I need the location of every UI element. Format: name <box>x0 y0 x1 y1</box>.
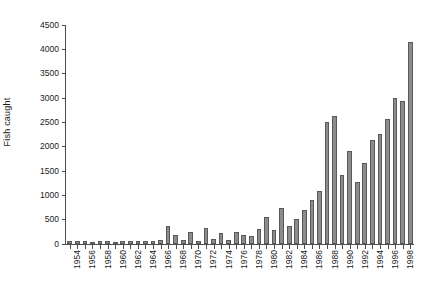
x-axis-tick-label: 1996 <box>391 250 400 269</box>
x-axis-tick-mark <box>115 245 116 249</box>
bar <box>67 241 72 244</box>
x-axis-tick-label: 1972 <box>209 250 218 269</box>
bar <box>211 239 216 244</box>
bar <box>378 134 383 244</box>
bar <box>257 229 262 244</box>
bar <box>90 242 95 244</box>
x-axis-tick-label: 1980 <box>270 250 279 269</box>
y-axis: 050010001500200025003000350040004500 <box>0 0 66 286</box>
x-axis-tick-mark <box>236 245 237 249</box>
x-axis-tick-mark <box>372 245 373 249</box>
x-axis-tick-mark <box>138 245 139 249</box>
x-axis-tick-mark <box>161 245 162 249</box>
bar <box>151 241 156 244</box>
bar <box>158 240 163 244</box>
y-axis-tick-label: 1000 <box>40 191 62 200</box>
bar <box>408 42 413 244</box>
y-axis-tick-label: 2000 <box>40 142 62 151</box>
x-axis-tick-mark <box>70 245 71 249</box>
bar <box>355 182 360 244</box>
bar <box>279 208 284 244</box>
x-axis-tick-mark <box>123 245 124 249</box>
x-axis-tick-label: 1960 <box>119 250 128 269</box>
x-axis-tick-mark <box>335 245 336 249</box>
bar <box>128 241 133 244</box>
x-axis-tick-label: 1966 <box>164 250 173 269</box>
x-axis-tick-mark <box>198 245 199 249</box>
bar <box>294 219 299 244</box>
bar <box>173 235 178 244</box>
bar <box>332 116 337 244</box>
x-axis-tick-label: 1986 <box>315 250 324 269</box>
bar <box>204 228 209 244</box>
y-axis-tick-label: 4000 <box>40 45 62 54</box>
x-axis-tick-label: 1990 <box>346 250 355 269</box>
x-axis-tick-mark <box>229 245 230 249</box>
x-axis-tick-mark <box>297 245 298 249</box>
x-axis-tick-mark <box>259 245 260 249</box>
x-axis-tick-mark <box>108 245 109 249</box>
x-axis-tick-label: 1994 <box>376 250 385 269</box>
bar <box>196 241 201 244</box>
x-axis-tick-mark <box>191 245 192 249</box>
x-axis-tick-mark <box>327 245 328 249</box>
x-axis-tick-mark <box>100 245 101 249</box>
x-axis-tick-mark <box>312 245 313 249</box>
x-axis-tick-label: 1958 <box>104 250 113 269</box>
x-axis-tick-mark <box>410 245 411 249</box>
bar <box>105 241 110 244</box>
y-axis-tick-label: 4500 <box>40 21 62 30</box>
x-axis-tick-mark <box>130 245 131 249</box>
x-axis-tick-mark <box>274 245 275 249</box>
x-axis-tick-label: 1988 <box>331 250 340 269</box>
x-axis-tick-mark <box>403 245 404 249</box>
x-axis-tick-mark <box>342 245 343 249</box>
x-axis-tick-mark <box>77 245 78 249</box>
x-axis-tick-label: 1974 <box>225 250 234 269</box>
x-axis-tick-mark <box>168 245 169 249</box>
bar <box>325 122 330 244</box>
bar <box>166 226 171 244</box>
x-axis-tick-mark <box>85 245 86 249</box>
x-axis-tick-label: 1964 <box>149 250 158 269</box>
y-axis-tick-label: 2500 <box>40 118 62 127</box>
bar <box>385 119 390 244</box>
bar <box>75 241 80 244</box>
bar <box>241 235 246 244</box>
x-axis-tick-label: 1970 <box>194 250 203 269</box>
x-axis-tick-mark <box>266 245 267 249</box>
x-axis-tick-mark <box>304 245 305 249</box>
bar <box>362 163 367 244</box>
x-axis-tick-mark <box>214 245 215 249</box>
y-axis-tick-label: 1500 <box>40 167 62 176</box>
bar <box>264 217 269 244</box>
y-axis-tick-label: 500 <box>45 215 62 224</box>
x-axis-tick-label: 1962 <box>134 250 143 269</box>
x-axis-tick-mark <box>206 245 207 249</box>
x-axis-tick-mark <box>251 245 252 249</box>
bar <box>113 242 118 244</box>
x-axis-tick-label: 1954 <box>73 250 82 269</box>
y-axis-tick-label: 3500 <box>40 69 62 78</box>
bar <box>393 98 398 244</box>
x-axis-tick-label: 1956 <box>88 250 97 269</box>
x-axis: 1954195619581960196219641966196819701972… <box>66 245 414 286</box>
x-axis-tick-label: 1976 <box>240 250 249 269</box>
bar <box>400 101 405 244</box>
bar <box>249 236 254 244</box>
x-axis-tick-mark <box>183 245 184 249</box>
x-axis-tick-mark <box>153 245 154 249</box>
bar <box>83 241 88 244</box>
x-axis-tick-mark <box>282 245 283 249</box>
bar <box>302 210 307 244</box>
x-axis-tick-label: 1984 <box>300 250 309 269</box>
bar <box>370 140 375 244</box>
x-axis-tick-mark <box>357 245 358 249</box>
x-axis-tick-mark <box>92 245 93 249</box>
plot-area <box>66 25 414 244</box>
x-axis-tick-mark <box>395 245 396 249</box>
x-axis-tick-mark <box>145 245 146 249</box>
bar <box>310 200 315 244</box>
x-axis-tick-mark <box>365 245 366 249</box>
bar <box>143 241 148 244</box>
